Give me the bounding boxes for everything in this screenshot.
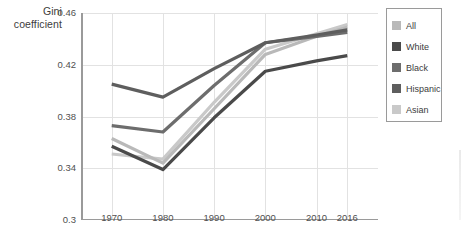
legend: AllWhiteBlackHispanicAsian bbox=[386, 8, 442, 122]
legend-swatch-icon bbox=[392, 42, 401, 51]
legend-item-white[interactable]: White bbox=[392, 36, 441, 57]
y-tick-label: 0.3 bbox=[36, 214, 76, 225]
y-tick-label: 0.38 bbox=[36, 111, 76, 122]
series-lines bbox=[81, 13, 378, 220]
x-tick-label: 2000 bbox=[243, 212, 287, 223]
legend-label: Asian bbox=[406, 105, 429, 115]
series-line-black bbox=[112, 32, 348, 132]
legend-item-asian[interactable]: Asian bbox=[392, 99, 441, 120]
x-tick-label: 1990 bbox=[192, 212, 236, 223]
x-tick-label: 1980 bbox=[141, 212, 185, 223]
legend-item-black[interactable]: Black bbox=[392, 57, 441, 78]
legend-swatch-icon bbox=[392, 84, 401, 93]
legend-label: All bbox=[406, 21, 416, 31]
chart-root: Gini coefficient 0.30.340.380.420.46 197… bbox=[0, 0, 462, 248]
legend-label: Black bbox=[406, 63, 428, 73]
y-axis-title-line2: coefficient bbox=[14, 18, 62, 30]
plot-area bbox=[81, 13, 378, 220]
legend-swatch-icon bbox=[392, 105, 401, 114]
y-tick-label: 0.46 bbox=[36, 7, 76, 18]
series-line-all bbox=[112, 27, 348, 163]
legend-swatch-icon bbox=[392, 21, 401, 30]
legend-label: Hispanic bbox=[406, 84, 441, 94]
legend-label: White bbox=[406, 42, 429, 52]
legend-item-all[interactable]: All bbox=[392, 15, 441, 36]
y-tick-label: 0.42 bbox=[36, 59, 76, 70]
y-tick-label: 0.34 bbox=[36, 162, 76, 173]
x-tick-label: 1970 bbox=[90, 212, 134, 223]
legend-swatch-icon bbox=[392, 63, 401, 72]
legend-item-hispanic[interactable]: Hispanic bbox=[392, 78, 441, 99]
edge-artifact bbox=[459, 150, 461, 220]
x-tick-label: 2016 bbox=[325, 212, 369, 223]
